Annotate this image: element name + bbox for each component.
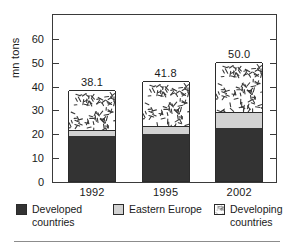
bar-value-label-1992: 38.1 xyxy=(62,76,122,88)
bar-value-label-1995: 41.8 xyxy=(136,67,196,79)
y-tick-label: 20 xyxy=(32,128,44,140)
bar-series-container: 38.141.850.0 xyxy=(53,15,276,182)
bar-value-label-2002: 50.0 xyxy=(209,48,269,60)
y-tick-mark-right xyxy=(270,182,276,183)
bar-segment-1992-series-0 xyxy=(69,136,115,181)
y-tick-label: 10 xyxy=(32,152,44,164)
bar-group-2002: 50.0 xyxy=(215,15,263,182)
stacked-bar-1995[interactable] xyxy=(142,82,190,182)
swatch-eastern-europe-icon xyxy=(113,204,124,215)
x-tick-label-1995: 1995 xyxy=(131,186,201,198)
legend-item-developing-countries[interactable]: Developing countries xyxy=(214,203,284,228)
bottom-divider xyxy=(14,241,280,242)
legend-label-eastern-europe: Eastern Europe xyxy=(129,203,202,216)
legend-item-developed-countries[interactable]: Developed countries xyxy=(16,203,113,228)
bar-group-1992: 38.1 xyxy=(68,15,116,182)
bar-segment-1992-series-2 xyxy=(69,90,115,130)
y-tick-mark xyxy=(53,182,59,183)
legend-label-developed-countries: Developed countries xyxy=(32,203,82,228)
y-tick-label: 0 xyxy=(38,176,44,188)
bar-segment-2002-series-0 xyxy=(216,128,262,181)
y-tick-label: 50 xyxy=(32,57,44,69)
bar-segment-1995-series-1 xyxy=(143,126,189,135)
legend-item-eastern-europe[interactable]: Eastern Europe xyxy=(113,203,214,216)
y-tick-label: 60 xyxy=(32,33,44,45)
bar-segment-1995-series-2 xyxy=(143,81,189,126)
chart-figure: mn tons 0102030405060 38.141.850.0 19921… xyxy=(0,0,294,247)
stacked-bar-1992[interactable] xyxy=(68,91,116,182)
bar-group-1995: 41.8 xyxy=(142,15,190,182)
y-tick-label: 30 xyxy=(32,104,44,116)
chart-legend: Developed countries Eastern Europe Devel… xyxy=(16,203,284,228)
bar-segment-1992-series-1 xyxy=(69,130,115,137)
y-axis-title: mn tons xyxy=(9,37,21,78)
x-tick-label-2002: 2002 xyxy=(204,186,274,198)
swatch-developing-countries-icon xyxy=(214,204,225,215)
swatch-developed-countries-icon xyxy=(16,204,27,215)
x-tick-label-1992: 1992 xyxy=(57,186,127,198)
plot-area: 0102030405060 38.141.850.0 xyxy=(52,14,277,183)
legend-label-developing-countries: Developing countries xyxy=(230,203,283,228)
bar-segment-2002-series-1 xyxy=(216,112,262,128)
bar-segment-1995-series-0 xyxy=(143,134,189,181)
y-tick-label: 40 xyxy=(32,81,44,93)
bar-segment-2002-series-2 xyxy=(216,62,262,113)
stacked-bar-2002[interactable] xyxy=(215,63,263,182)
